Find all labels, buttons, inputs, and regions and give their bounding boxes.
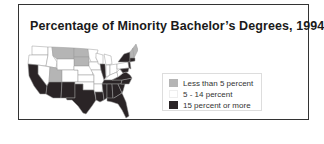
state-north-dakota: [74, 48, 89, 57]
map-legend: Less than 5 percent 5 - 14 percent 15 pe…: [162, 73, 262, 111]
state-louisiana: [95, 92, 104, 102]
state-kansas: [78, 75, 94, 82]
legend-label: Less than 5 percent: [183, 79, 253, 88]
state-massachusetts-ct-ri: [130, 58, 135, 62]
state-south-dakota: [74, 57, 89, 66]
legend-item-15-or-more: 15 percent or more: [169, 100, 251, 110]
state-wyoming: [57, 59, 74, 70]
legend-label: 15 percent or more: [183, 101, 251, 110]
figure-title: Percentage of Minority Bachelor’s Degree…: [30, 19, 324, 33]
state-tennessee: [102, 80, 122, 84]
legend-item-5-to-14: 5 - 14 percent: [169, 89, 232, 99]
state-washington: [32, 46, 48, 55]
state-arkansas: [94, 84, 103, 92]
state-montana: [52, 47, 74, 59]
legend-swatch-light-gray: [169, 79, 178, 87]
state-arizona: [46, 82, 62, 98]
state-new-mexico: [61, 82, 75, 98]
legend-item-less-than-5: Less than 5 percent: [169, 78, 253, 88]
state-colorado: [62, 70, 78, 82]
state-new-york: [118, 52, 130, 62]
legend-swatch-dark: [169, 101, 178, 109]
legend-label: 5 - 14 percent: [183, 90, 232, 99]
us-choropleth-map: [26, 44, 138, 124]
state-maine: [133, 44, 138, 58]
legend-swatch-white: [169, 90, 178, 98]
state-michigan: [104, 54, 112, 65]
